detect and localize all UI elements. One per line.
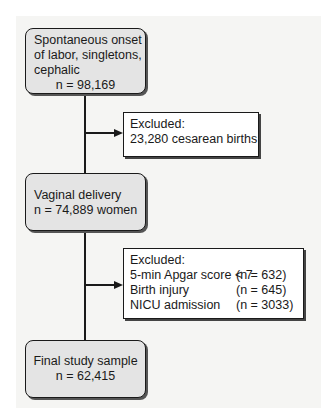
- node-start-line-1: Spontaneous onset: [34, 33, 137, 48]
- exclusion-row-birth-injury: Birth injury (n = 645): [130, 283, 297, 298]
- node-start-count: n = 98,169: [34, 78, 137, 93]
- exclusion-item-count: (n = 632): [236, 268, 286, 283]
- branch-line-exclusions: [85, 284, 115, 286]
- connector-vaginal-to-final: [84, 230, 86, 342]
- exclusion-row-nicu: NICU admission (n = 3033): [130, 298, 297, 313]
- node-start-line-3: cephalic: [34, 63, 137, 78]
- exclusion-title: Excluded:: [130, 253, 297, 268]
- branch-line-cesarean: [85, 132, 115, 134]
- exclusion-item-label: 5-min Apgar score < 7: [130, 268, 236, 283]
- exclusion-title: Excluded:: [130, 117, 252, 132]
- exclusion-box-outcomes: Excluded: 5-min Apgar score < 7 (n = 632…: [123, 248, 304, 319]
- exclusion-item-count: (n = 645): [236, 283, 286, 298]
- exclusion-item-label: NICU admission: [130, 298, 236, 313]
- node-final-count: n = 62,415: [30, 369, 141, 384]
- arrow-icon: [114, 129, 123, 137]
- exclusion-item-label: Birth injury: [130, 283, 236, 298]
- node-final-label: Final study sample: [30, 354, 141, 369]
- arrow-icon: [114, 281, 123, 289]
- node-start-line-2: of labor, singletons,: [34, 48, 137, 63]
- exclusion-row-apgar: 5-min Apgar score < 7 (n = 632): [130, 268, 297, 283]
- exclusion-item-count: (n = 3033): [236, 298, 293, 313]
- connector-start-to-vaginal: [84, 93, 86, 175]
- exclusion-box-cesarean: Excluded: 23,280 cesarean births: [123, 112, 259, 157]
- exclusion-item: 23,280 cesarean births: [130, 132, 252, 147]
- node-start: Spontaneous onset of labor, singletons, …: [25, 28, 146, 94]
- node-vaginal-count: n = 74,889 women: [34, 203, 137, 218]
- node-final-sample: Final study sample n = 62,415: [25, 340, 146, 398]
- node-vaginal-label: Vaginal delivery: [34, 188, 137, 203]
- node-vaginal-delivery: Vaginal delivery n = 74,889 women: [25, 173, 146, 231]
